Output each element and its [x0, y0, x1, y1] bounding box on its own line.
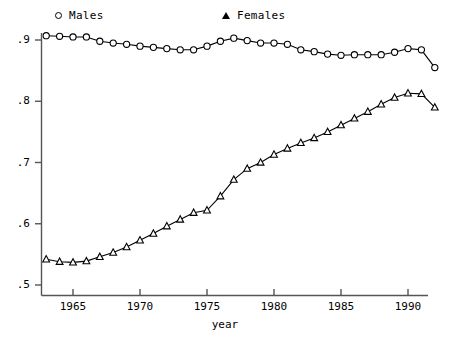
data-point-circle [351, 52, 357, 58]
data-point-triangle [137, 237, 144, 243]
data-point-circle [325, 51, 331, 57]
data-point-circle [365, 52, 371, 58]
data-point-circle [124, 41, 130, 47]
data-point-triangle [163, 223, 170, 229]
data-point-triangle [405, 90, 412, 96]
data-point-circle [271, 40, 277, 46]
data-point-triangle [324, 128, 331, 134]
series-females [43, 90, 438, 265]
data-point-circle [258, 40, 264, 46]
y-tick-label: .6 [6, 217, 30, 230]
x-tick-label: 1980 [252, 300, 296, 313]
data-point-circle [164, 45, 170, 51]
x-tick-label: 1990 [386, 300, 430, 313]
data-point-circle [177, 47, 183, 53]
data-point-triangle [338, 121, 345, 127]
data-point-triangle [230, 176, 237, 182]
data-point-circle [418, 47, 424, 53]
line-chart [0, 0, 450, 338]
data-point-triangle [378, 101, 385, 107]
data-point-circle [97, 38, 103, 44]
series-line [46, 36, 435, 68]
data-point-circle [311, 49, 317, 55]
data-point-circle [338, 52, 344, 58]
data-point-circle [83, 34, 89, 40]
y-tick-label: .5 [6, 278, 30, 291]
data-point-circle [204, 43, 210, 49]
data-point-circle [137, 43, 143, 49]
data-point-triangle [257, 159, 264, 165]
data-point-triangle [150, 230, 157, 236]
x-tick-label: 1965 [51, 300, 95, 313]
data-point-circle [217, 38, 223, 44]
data-point-circle [191, 47, 197, 53]
x-tick-label: 1970 [118, 300, 162, 313]
data-point-circle [298, 47, 304, 53]
y-tick-label: .8 [6, 94, 30, 107]
data-point-circle [150, 44, 156, 50]
y-tick-label: .9 [6, 33, 30, 46]
data-point-circle [57, 33, 63, 39]
data-point-triangle [177, 216, 184, 222]
data-point-circle [43, 33, 49, 39]
data-point-circle [405, 45, 411, 51]
data-point-circle [392, 49, 398, 55]
data-point-circle [432, 64, 438, 70]
data-point-circle [244, 38, 250, 44]
y-tick-marks [35, 40, 42, 285]
y-tick-label: .7 [6, 156, 30, 169]
data-point-triangle [123, 243, 130, 249]
data-point-circle [284, 41, 290, 47]
data-series-layer [43, 33, 438, 265]
data-point-circle [70, 34, 76, 40]
data-point-triangle [364, 108, 371, 114]
x-tick-label: 1985 [319, 300, 363, 313]
data-point-triangle [43, 256, 50, 262]
data-point-circle [378, 52, 384, 58]
x-tick-marks [73, 289, 408, 296]
series-line [46, 93, 435, 262]
x-axis-title: year [0, 318, 450, 331]
data-point-circle [231, 35, 237, 41]
data-point-triangle [351, 115, 358, 121]
series-males [43, 33, 438, 71]
x-tick-label: 1975 [185, 300, 229, 313]
data-point-circle [110, 40, 116, 46]
